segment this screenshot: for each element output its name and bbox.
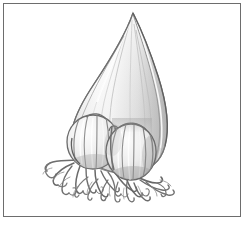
illustration-page [0, 0, 248, 230]
bulb-illustration [0, 0, 248, 230]
